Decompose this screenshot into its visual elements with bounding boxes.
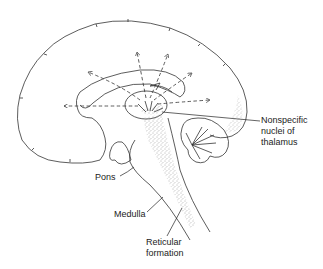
label-line-1: Nonspecific (261, 115, 308, 125)
label-line-2: nuclei of (261, 126, 295, 136)
label-line-2: formation (146, 248, 184, 258)
label-reticular-formation: Reticular formation (146, 237, 184, 258)
label-line-3: thalamus (261, 137, 298, 147)
label-line-1: Reticular (146, 237, 182, 247)
cerebrum (17, 19, 247, 163)
cerebellum (181, 118, 229, 163)
brainstem (110, 114, 210, 240)
projection-arrows (64, 52, 210, 106)
label-thalamus: Nonspecific nuclei of thalamus (261, 115, 308, 147)
brain-diagram: Nonspecific nuclei of thalamus Pons Medu… (0, 0, 323, 269)
label-medulla: Medulla (114, 209, 146, 219)
label-pons: Pons (95, 172, 116, 182)
